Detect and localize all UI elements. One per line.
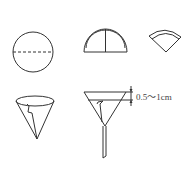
dimension-label: 0.5～1cm [136, 92, 172, 102]
half-folded-paper [84, 29, 127, 52]
filter-paper-folding-diagram: 0.5～1cm [0, 0, 192, 170]
dimension-marker: 0.5～1cm [122, 86, 172, 106]
funnel-with-filter-paper [84, 92, 126, 158]
inner-fold-line [28, 106, 37, 139]
opened-cone-paper [16, 96, 54, 139]
quarter-folded-paper [149, 30, 181, 52]
circle-filter-paper [13, 32, 53, 72]
